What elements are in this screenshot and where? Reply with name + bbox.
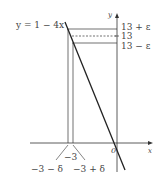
label-minus3-plus-delta: −3 + δ [73,164,105,174]
label-13-minus-epsilon: 13 − ε [121,41,151,51]
y-axis-label: y [107,11,113,19]
x-axis-arrow-icon [148,141,153,145]
label-minus3: −3 [64,152,78,162]
epsilon-delta-diagram: y = 1 − 4x y x 0 13 + ε 13 13 − ε −3 −3 … [0,0,162,177]
origin-label: 0 [111,146,116,155]
label-minus3-minus-delta: −3 − δ [31,164,63,174]
y-axis-arrow-icon [115,13,119,18]
label-13: 13 [121,31,133,41]
x-axis-label: x [148,147,152,155]
line-label: y = 1 − 4x [15,20,64,30]
